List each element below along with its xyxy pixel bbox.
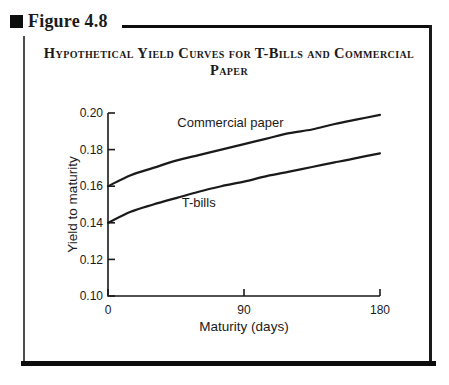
x-tick-label: 90 (237, 303, 251, 317)
yield-curve-chart: 0.100.120.140.160.180.20090180Maturity (… (0, 0, 449, 385)
series-label-commercial-paper: Commercial paper (177, 115, 284, 130)
y-tick-label: 0.18 (80, 143, 104, 157)
x-tick-label: 0 (105, 303, 112, 317)
y-tick-label: 0.10 (80, 289, 104, 303)
curve-t-bills (108, 153, 380, 223)
y-tick-label: 0.14 (80, 216, 104, 230)
y-tick-label: 0.20 (80, 106, 104, 120)
axes (108, 113, 380, 296)
series-label-t-bills: T-bills (182, 195, 216, 210)
x-axis-title: Maturity (days) (199, 319, 288, 334)
y-tick-label: 0.16 (80, 179, 104, 193)
x-tick-label: 180 (370, 303, 390, 317)
figure-4-8: Figure 4.8 Hypothetical Yield Curves for… (0, 0, 449, 385)
y-tick-label: 0.12 (80, 253, 104, 267)
y-axis-title: Yield to maturity (65, 156, 80, 253)
